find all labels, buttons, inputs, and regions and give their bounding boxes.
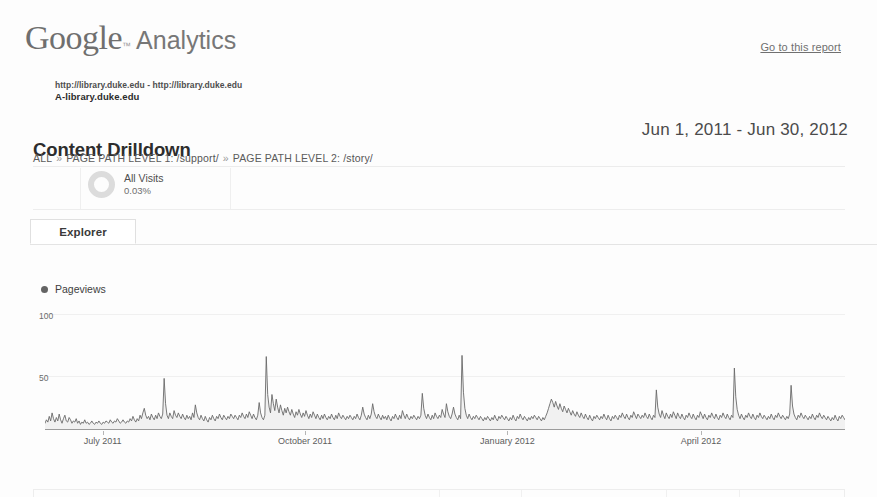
breadcrumb: ALL»PAGE PATH LEVEL 1: /support/»PAGE PA… xyxy=(33,152,373,164)
tab-explorer[interactable]: Explorer xyxy=(30,219,136,244)
table-column-separator-1 xyxy=(439,490,440,497)
data-table-header-border xyxy=(33,489,845,497)
x-axis-tick-mark xyxy=(305,431,306,435)
donut-chart-icon xyxy=(88,171,115,198)
chart-plot-area: 100 50 July 2011October 2011January 2012… xyxy=(33,305,845,431)
segment-top-divider xyxy=(33,166,845,167)
breadcrumb-level1-label: PAGE PATH LEVEL 1: xyxy=(66,152,173,164)
table-column-separator-3 xyxy=(666,490,667,497)
property-info: http://library.duke.edu - http://library… xyxy=(55,80,242,104)
report-page: Google™Analytics Go to this report http:… xyxy=(0,0,877,497)
x-axis-tick-label: October 2011 xyxy=(278,436,332,446)
segment-bottom-divider xyxy=(33,209,845,210)
segment-left-divider xyxy=(80,168,81,209)
breadcrumb-separator-icon: » xyxy=(52,152,66,164)
product-name: Analytics xyxy=(136,26,236,55)
tab-strip-underline xyxy=(30,244,877,245)
pageviews-line-series xyxy=(45,305,845,431)
x-axis-tick-mark xyxy=(507,431,508,435)
breadcrumb-item-all[interactable]: ALL xyxy=(33,152,52,164)
x-axis-tick-mark xyxy=(701,431,702,435)
segment-bar: All Visits 0.03% xyxy=(33,166,845,210)
breadcrumb-level2-value[interactable]: /story/ xyxy=(343,152,373,164)
tab-explorer-label: Explorer xyxy=(59,226,106,238)
go-to-this-report-link[interactable]: Go to this report xyxy=(760,41,841,53)
trademark-icon: ™ xyxy=(122,41,131,51)
segment-all-visits[interactable]: All Visits 0.03% xyxy=(88,171,163,198)
google-analytics-logo: Google™Analytics xyxy=(25,21,236,55)
property-url-line: http://library.duke.edu - http://library… xyxy=(55,80,242,91)
x-axis-tick-label: April 2012 xyxy=(681,436,722,446)
google-wordmark: Google xyxy=(25,21,122,55)
breadcrumb-level1-value[interactable]: /support/ xyxy=(177,152,219,164)
legend-label-pageviews: Pageviews xyxy=(55,283,106,295)
x-axis-tick-mark xyxy=(103,431,104,435)
segment-percent: 0.03% xyxy=(124,185,163,198)
chart-legend[interactable]: Pageviews xyxy=(41,283,106,295)
tab-strip: Explorer xyxy=(20,219,877,245)
table-column-separator-2 xyxy=(521,490,522,497)
segment-name: All Visits xyxy=(124,171,163,185)
breadcrumb-separator-icon-2: » xyxy=(219,152,233,164)
x-axis-tick-label: January 2012 xyxy=(480,436,535,446)
segment-right-divider xyxy=(230,168,231,209)
property-profile-name: A-library.duke.edu xyxy=(55,91,242,104)
breadcrumb-level2-label: PAGE PATH LEVEL 2: xyxy=(233,152,340,164)
pageviews-chart-panel: Pageviews 100 50 July 2011October 2011Ja… xyxy=(33,283,845,445)
date-range-label[interactable]: Jun 1, 2011 - Jun 30, 2012 xyxy=(642,120,848,140)
segment-text: All Visits 0.03% xyxy=(124,171,163,198)
legend-marker-icon xyxy=(41,286,48,293)
x-axis-tick-label: July 2011 xyxy=(84,436,122,446)
x-axis-line xyxy=(45,429,845,430)
table-column-separator-4 xyxy=(739,490,740,497)
